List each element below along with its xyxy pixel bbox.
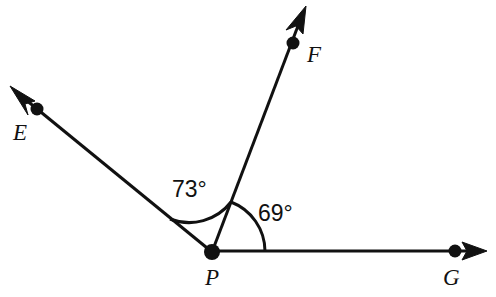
geometry-figure: E F G P 73° 69° — [0, 0, 496, 297]
point-e-label: E — [12, 120, 27, 145]
angle-diagram-canvas: E F G P 73° 69° — [0, 0, 496, 297]
point-g-dot — [449, 245, 462, 258]
ray-pe-line — [20, 95, 212, 252]
angle-fpg-measure-label: 69° — [258, 200, 293, 226]
point-e-dot — [31, 103, 44, 116]
point-p-label: P — [204, 265, 219, 290]
point-f-label: F — [306, 42, 322, 67]
angle-epf-measure-label: 73° — [172, 176, 207, 202]
ray-pg-group: G — [212, 242, 487, 290]
point-f-dot — [287, 37, 300, 50]
angle-epf-arc — [170, 202, 231, 223]
point-p-dot — [204, 244, 220, 260]
point-g-label: G — [443, 265, 460, 290]
ray-pe-group: E — [10, 86, 212, 252]
